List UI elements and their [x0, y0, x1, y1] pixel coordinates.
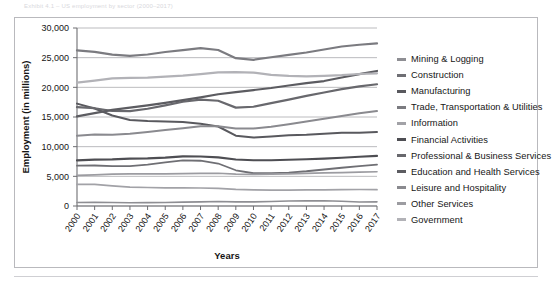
x-tick-label: 2009: [222, 211, 242, 233]
legend-swatch-icon: [397, 90, 406, 93]
legend-label: Government: [411, 215, 463, 225]
legend-label: Information: [411, 118, 458, 128]
x-tick-label: 2003: [116, 211, 136, 233]
legend-label: Other Services: [411, 199, 473, 209]
legend-swatch-icon: [397, 154, 406, 157]
legend-label: Professional & Business Services: [411, 151, 551, 161]
legend-swatch-icon: [397, 170, 406, 173]
series-line-5: [77, 156, 377, 161]
legend-item-4[interactable]: Information: [397, 115, 554, 131]
y-tick-label: 20,000: [41, 83, 69, 93]
x-tick-label: 2013: [292, 211, 312, 233]
y-tick-label: 10,000: [41, 142, 69, 152]
x-tick-labels: 2000200120022003200420052006200720082009…: [63, 211, 383, 233]
figure-container: Exhibit 4.1 – US employment by sector (2…: [0, 0, 554, 287]
x-tick-label: 2007: [186, 211, 206, 233]
legend-item-1[interactable]: Construction: [397, 67, 554, 83]
x-tick-label: 2008: [204, 211, 224, 233]
legend-item-3[interactable]: Trade, Transportation & Utilities: [397, 99, 554, 115]
legend-label: Mining & Logging: [411, 54, 484, 64]
x-tick-label: 2015: [328, 211, 348, 233]
legend-label: Financial Activities: [411, 135, 488, 145]
y-tick-label: 15,000: [41, 112, 69, 122]
legend-swatch-icon: [397, 74, 406, 77]
legend-item-7[interactable]: Education and Health Services: [397, 164, 554, 180]
chart-legend: Mining & LoggingConstructionManufacturin…: [397, 51, 554, 228]
legend-item-0[interactable]: Mining & Logging: [397, 51, 554, 67]
series-line-4: [77, 184, 377, 190]
legend-item-5[interactable]: Financial Activities: [397, 131, 554, 147]
x-tick-label: 2006: [169, 211, 189, 233]
x-tick-label: 2004: [134, 211, 154, 233]
series-line-0: [77, 201, 377, 203]
x-tick-label: 2012: [275, 211, 295, 233]
series-line-9: [77, 172, 377, 176]
x-tick-label: 2016: [345, 211, 365, 233]
footer-divider: [14, 276, 538, 277]
x-axis-title: Years: [214, 250, 239, 261]
legend-swatch-icon: [397, 186, 406, 189]
y-axis-title: Employment (in millions): [20, 61, 31, 174]
x-tick-label: 2005: [151, 211, 171, 233]
legend-swatch-icon: [397, 58, 406, 61]
chart-panel: 05,00010,00015,00020,00025,00030,000 200…: [14, 17, 538, 268]
legend-label: Manufacturing: [411, 86, 471, 96]
legend-item-2[interactable]: Manufacturing: [397, 83, 554, 99]
y-tick-labels: 05,00010,00015,00020,00025,00030,000: [41, 23, 69, 211]
legend-item-6[interactable]: Professional & Business Services: [397, 148, 554, 164]
x-tick-label: 2011: [257, 211, 276, 233]
x-tick-label: 2002: [98, 211, 118, 233]
legend-swatch-icon: [397, 138, 406, 141]
series-line-10: [77, 72, 377, 82]
legend-item-8[interactable]: Leisure and Hospitality: [397, 180, 554, 196]
series-line-1: [77, 160, 377, 173]
legend-label: Education and Health Services: [411, 167, 540, 177]
legend-swatch-icon: [397, 122, 406, 125]
series-lines: [77, 43, 377, 202]
legend-swatch-icon: [397, 218, 406, 221]
legend-label: Construction: [411, 70, 464, 80]
legend-swatch-icon: [397, 202, 406, 205]
x-tick-label: 2010: [239, 211, 259, 233]
legend-label: Leisure and Hospitality: [411, 183, 506, 193]
y-tick-label: 30,000: [41, 23, 69, 33]
x-tick-label: 2001: [81, 211, 101, 233]
x-tick-label: 2017: [363, 211, 383, 233]
legend-item-9[interactable]: Other Services: [397, 196, 554, 212]
y-tick-label: 5,000: [46, 172, 69, 182]
legend-swatch-icon: [397, 106, 406, 109]
legend-label: Trade, Transportation & Utilities: [411, 102, 543, 112]
x-tick-label: 2000: [63, 211, 83, 233]
legend-item-10[interactable]: Government: [397, 212, 554, 228]
y-tick-label: 0: [64, 201, 69, 211]
x-tick-label: 2014: [310, 211, 330, 233]
y-tick-label: 25,000: [41, 53, 69, 63]
figure-caption: Exhibit 4.1 – US employment by sector (2…: [0, 0, 554, 12]
series-line-6: [77, 84, 377, 111]
